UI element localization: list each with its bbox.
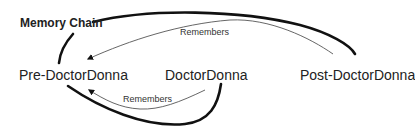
node-doctordonna: DoctorDonna [165, 67, 248, 83]
remembers-arrow-post-to-pre [88, 20, 333, 59]
memory-chain-left-hook [59, 34, 73, 63]
node-post-doctordonna: Post-DoctorDonna [300, 67, 415, 83]
diagram-title: Memory Chain [20, 16, 103, 30]
node-pre-doctordonna: Pre-DoctorDonna [19, 67, 128, 83]
edge-label-post-to-pre: Remembers [180, 27, 229, 37]
edge-label-doctor-to-pre: Remembers [123, 94, 172, 104]
memory-chain-bottom-curve [68, 84, 221, 125]
